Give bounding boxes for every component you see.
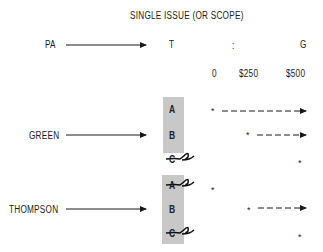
strike-green-c	[166, 153, 194, 160]
strike-thompson-a	[166, 179, 194, 186]
diagram-lines	[0, 0, 323, 252]
strike-thompson-c	[166, 227, 194, 234]
